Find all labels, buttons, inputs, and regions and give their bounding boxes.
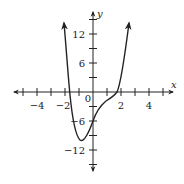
y-tick-label: −12: [64, 145, 85, 156]
y-tick-label: 12: [72, 29, 85, 40]
x-tick-label: 4: [146, 100, 152, 111]
x-tick-label: 2: [118, 100, 124, 111]
origin-label: 0: [85, 93, 91, 104]
function-graph: −4 −2 0 2 4 12 6 −6 −12 x y: [0, 0, 184, 184]
y-tick-label: 6: [79, 58, 85, 69]
function-curve: [64, 23, 129, 141]
x-tick-label: −4: [30, 100, 45, 111]
x-tick-label: −2: [56, 100, 71, 111]
y-axis-label: y: [96, 8, 103, 19]
x-axis-label: x: [171, 79, 177, 90]
